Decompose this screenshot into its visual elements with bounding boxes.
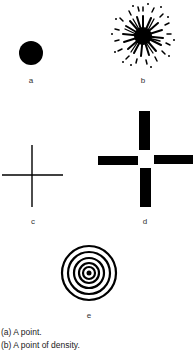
panel-label-e: e bbox=[79, 311, 99, 320]
concentric-circles-icon bbox=[0, 0, 195, 354]
caption-a: (a) A point. bbox=[1, 327, 42, 337]
caption-b: (b) A point of density. bbox=[1, 340, 80, 350]
